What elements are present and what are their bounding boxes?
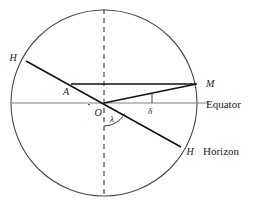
label-h-lower: H (185, 146, 194, 157)
label-horizon: Horizon (203, 145, 240, 157)
label-point-m: M (205, 78, 215, 89)
figure-canvas: H A O M λ δ Equator H Horizon (0, 0, 254, 207)
radius-om-icon (104, 84, 197, 103)
celestial-sphere-diagram: H A O M λ δ Equator H Horizon (0, 0, 254, 207)
label-point-a: A (62, 86, 70, 97)
lambda-arc-icon (104, 114, 125, 127)
label-angle-delta: δ (148, 106, 153, 116)
label-point-o: O (94, 107, 101, 118)
label-h-upper: H (8, 52, 17, 63)
label-angle-lambda: λ (109, 114, 114, 124)
label-equator: Equator (206, 98, 241, 110)
